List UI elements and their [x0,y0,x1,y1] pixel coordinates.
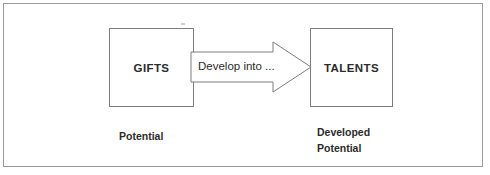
node-gifts[interactable]: GIFTS [109,28,194,107]
caption-talents-line-2: Potential [317,140,370,156]
develop-arrow-label: Develop into ... [190,59,300,73]
node-talents-label: TALENTS [324,62,379,74]
outer-frame: GIFTS TALENTS Develop into ... Potential… [3,3,483,167]
diagram-canvas: GIFTS TALENTS Develop into ... Potential… [0,0,490,175]
caption-talents: Developed Potential [317,124,370,156]
caption-gifts: Potential [119,128,163,144]
scan-artifact [181,23,185,25]
node-gifts-label: GIFTS [134,62,170,74]
caption-talents-line-1: Developed [317,124,370,140]
node-talents[interactable]: TALENTS [310,28,393,107]
